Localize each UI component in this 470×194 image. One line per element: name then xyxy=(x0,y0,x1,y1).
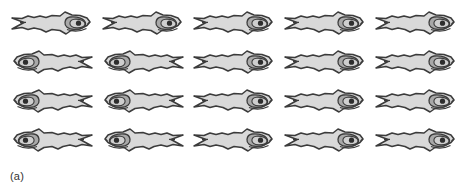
fish-grid xyxy=(0,0,470,166)
fish-silhouette xyxy=(281,82,369,120)
fish-silhouette xyxy=(372,121,460,159)
fish-row xyxy=(0,121,470,159)
fish-silhouette xyxy=(99,43,187,81)
fish-silhouette xyxy=(99,82,187,120)
fish-silhouette xyxy=(281,43,369,81)
fish-silhouette xyxy=(99,4,187,42)
fish-silhouette xyxy=(281,4,369,42)
fish-silhouette xyxy=(190,121,278,159)
fish-row xyxy=(0,4,470,42)
fish-silhouette xyxy=(281,121,369,159)
fish-silhouette xyxy=(372,4,460,42)
fish-silhouette xyxy=(8,82,96,120)
fish-silhouette xyxy=(190,82,278,120)
fish-silhouette xyxy=(190,4,278,42)
fish-silhouette xyxy=(8,43,96,81)
figure-panel: (a) xyxy=(0,0,470,194)
fish-silhouette xyxy=(8,121,96,159)
fish-row xyxy=(0,43,470,81)
panel-caption: (a) xyxy=(10,170,24,182)
fish-silhouette xyxy=(8,4,96,42)
fish-silhouette xyxy=(190,43,278,81)
fish-row xyxy=(0,82,470,120)
fish-silhouette xyxy=(99,121,187,159)
fish-silhouette xyxy=(372,82,460,120)
fish-silhouette xyxy=(372,43,460,81)
